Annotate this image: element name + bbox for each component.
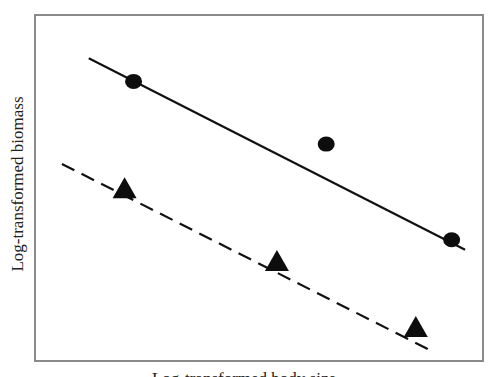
circle-marker: [318, 137, 335, 152]
circle-marker: [125, 74, 142, 89]
x-axis-label: Log-transformed body size: [0, 366, 488, 377]
chart-canvas: [0, 0, 488, 377]
plot-frame: [35, 15, 483, 361]
y-axis-label: Log-transformed biomass: [8, 74, 28, 294]
circle-marker: [443, 232, 460, 247]
